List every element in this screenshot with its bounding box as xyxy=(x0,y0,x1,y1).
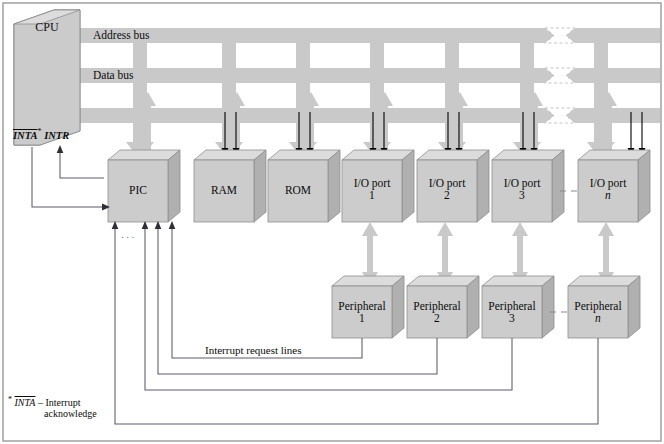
device-label-io1-text: I/O port xyxy=(354,177,391,189)
intr-label: INTR xyxy=(44,130,69,141)
peripheral-label-2-index: 2 xyxy=(413,312,460,324)
irq-ellipsis: ... xyxy=(121,229,137,241)
peripheral-label-3: Peripheral 3 xyxy=(488,300,535,324)
device-label-ion: I/O port n xyxy=(590,177,627,201)
peripheral-label-1-text: Peripheral xyxy=(338,300,385,312)
inta-asterisk: * xyxy=(38,127,42,136)
diagram-graphics xyxy=(0,0,664,444)
interrupt-request-lines-label: Interrupt request lines xyxy=(205,345,302,357)
cpu-label: CPU xyxy=(35,21,58,34)
footnote: * INTA – Interrupt acknowledge xyxy=(8,396,97,419)
data-bus-label: Data bus xyxy=(93,69,134,81)
device-label-io1: I/O port 1 xyxy=(354,177,391,201)
cpu-signal-labels: INTA* INTR xyxy=(13,128,69,141)
device-label-io3-text: I/O port xyxy=(504,177,541,189)
device-label-pic: PIC xyxy=(129,184,147,196)
device-label-io3: I/O port 3 xyxy=(504,177,541,201)
peripheral-label-1: Peripheral 1 xyxy=(338,300,385,324)
device-label-ram: RAM xyxy=(211,184,237,196)
system-bus-diagram: Address bus Data bus CPU INTA* INTR PIC … xyxy=(0,0,664,444)
footnote-dash: – Interrupt xyxy=(38,397,81,408)
footnote-second-line: acknowledge xyxy=(44,409,97,420)
device-label-rom: ROM xyxy=(285,184,311,196)
cpu-interrupt-control-lines xyxy=(32,147,104,207)
device-label-io2-index: 2 xyxy=(429,189,466,201)
peripheral-label-n: Peripheral n xyxy=(574,300,621,324)
peripheral-label-n-text: Peripheral xyxy=(574,300,621,312)
peripheral-label-3-text: Peripheral xyxy=(488,300,535,312)
device-label-io3-index: 3 xyxy=(504,189,541,201)
peripheral-label-1-index: 1 xyxy=(338,312,385,324)
footnote-asterisk: * xyxy=(8,395,12,404)
device-label-io2: I/O port 2 xyxy=(429,177,466,201)
inta-label: INTA xyxy=(13,130,38,141)
device-label-ion-text: I/O port xyxy=(590,177,627,189)
peripheral-label-2-text: Peripheral xyxy=(413,300,460,312)
peripheral-label-3-index: 3 xyxy=(488,312,535,324)
device-label-ion-index: n xyxy=(590,189,627,201)
peripheral-label-2: Peripheral 2 xyxy=(413,300,460,324)
device-label-io1-index: 1 xyxy=(354,189,391,201)
device-label-io2-text: I/O port xyxy=(429,177,466,189)
footnote-signal: INTA xyxy=(15,397,36,408)
peripheral-label-n-index: n xyxy=(574,312,621,324)
address-bus-label: Address bus xyxy=(93,29,150,41)
address-bus-drops xyxy=(126,28,615,160)
